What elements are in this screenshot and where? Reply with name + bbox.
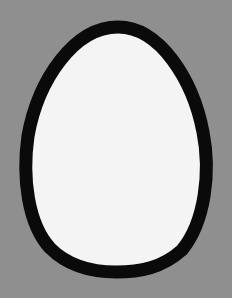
image-canvas — [0, 0, 232, 298]
egg-shape — [26, 27, 207, 272]
egg-drawing — [0, 0, 232, 298]
